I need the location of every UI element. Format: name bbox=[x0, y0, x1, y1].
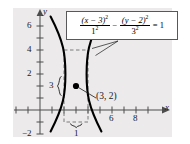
y-numerator-exponent: 2 bbox=[145, 14, 148, 20]
fraction-x-term: (x − 3)2 12 bbox=[80, 16, 110, 35]
horizontal-brace-label: 1 bbox=[74, 129, 79, 138]
fraction-x-denominator: 12 bbox=[89, 26, 100, 35]
center-point-label: (3, 2) bbox=[96, 92, 117, 102]
y-tick-label-2: 2 bbox=[27, 69, 32, 78]
x-denominator-exponent: 2 bbox=[96, 25, 99, 31]
fraction-y-denominator: 32 bbox=[130, 26, 141, 35]
y-tick-label-4: 4 bbox=[27, 45, 32, 54]
x-axis-label: x bbox=[165, 103, 169, 112]
x-tick-label-6: 6 bbox=[109, 114, 114, 123]
fraction-y-term: (y − 2)2 32 bbox=[120, 16, 150, 35]
equation-callout-box: (x − 3)2 12 − (y − 2)2 32 = 1 bbox=[66, 11, 178, 40]
vertical-brace-label: 3 bbox=[49, 81, 54, 90]
y-denominator-exponent: 2 bbox=[136, 25, 139, 31]
equals-one-text: = 1 bbox=[153, 21, 164, 30]
y-tick-label-6: 6 bbox=[27, 21, 32, 30]
x-numerator-text: (x − 3) bbox=[82, 15, 106, 25]
minus-operator: − bbox=[113, 21, 118, 30]
x-tick-label-8: 8 bbox=[133, 114, 138, 123]
y-tick-label-minus-2: −2 bbox=[22, 129, 32, 138]
y-numerator-text: (y − 2) bbox=[122, 15, 146, 25]
equation-expression: (x − 3)2 12 − (y − 2)2 32 = 1 bbox=[79, 16, 166, 35]
x-numerator-exponent: 2 bbox=[105, 14, 108, 20]
hyperbola-figure: (x − 3)2 12 − (y − 2)2 32 = 1 x y 6 4 2 … bbox=[0, 0, 190, 144]
y-axis-label: y bbox=[43, 7, 47, 16]
center-point-marker bbox=[73, 83, 79, 89]
